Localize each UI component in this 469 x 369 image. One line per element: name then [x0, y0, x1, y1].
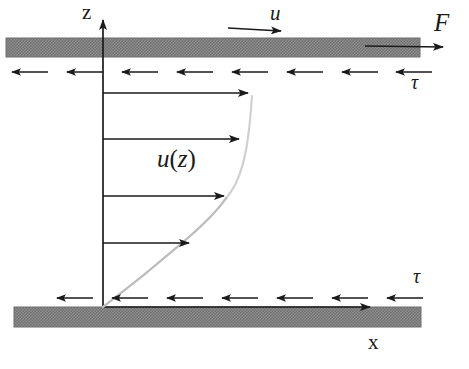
- velocity-function-symbol: u: [157, 145, 170, 172]
- couette-flow-figure: z x u F τ τ u(z): [0, 0, 469, 369]
- applied-force-label: F: [434, 10, 449, 35]
- plate-velocity-arrow: [228, 28, 281, 31]
- z-axis-label: z: [82, 2, 91, 23]
- velocity-profile-label: u(z): [157, 146, 196, 171]
- diagram-canvas: [0, 0, 469, 369]
- close-paren: ): [188, 145, 196, 172]
- velocity-profile-curve: [103, 96, 252, 307]
- open-paren: (: [170, 145, 178, 172]
- force-arrow: [365, 46, 443, 47]
- bottom-plate: [14, 307, 421, 327]
- x-axis-label: x: [368, 332, 379, 353]
- shear-stress-top-label: τ: [411, 72, 418, 92]
- top-plate: [6, 38, 420, 57]
- plate-velocity-label: u: [270, 3, 281, 24]
- velocity-variable-symbol: z: [178, 145, 188, 172]
- shear-stress-bottom-label: τ: [413, 266, 420, 286]
